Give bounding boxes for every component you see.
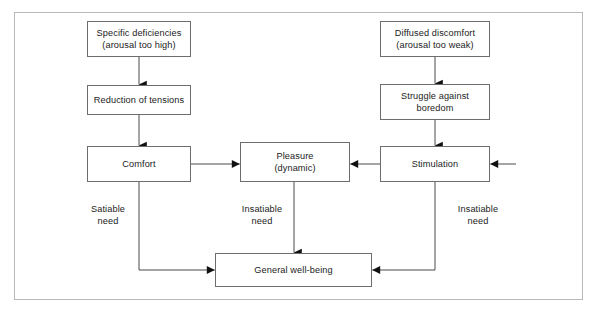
edge-label-satiable-need: Satiable need [80,203,136,228]
edge-label-insatiable-need-center: Insatiable need [232,203,292,228]
node-general-well-being: General well-being [215,253,372,287]
node-stimulation: Stimulation [380,146,490,182]
edge-label-insatiable-need-right: Insatiable need [448,203,508,228]
node-pleasure: Pleasure (dynamic) [240,142,350,182]
node-diffused-discomfort: Diffused discomfort (arousal too weak) [380,21,490,57]
node-comfort: Comfort [87,146,191,182]
node-reduction-of-tensions: Reduction of tensions [87,85,191,115]
node-struggle-against-boredom: Struggle against boredom [380,84,490,120]
node-specific-deficiencies: Specific deficiencies (arousal too high) [87,21,191,57]
diagram-canvas: Specific deficiencies (arousal too high)… [0,0,597,316]
